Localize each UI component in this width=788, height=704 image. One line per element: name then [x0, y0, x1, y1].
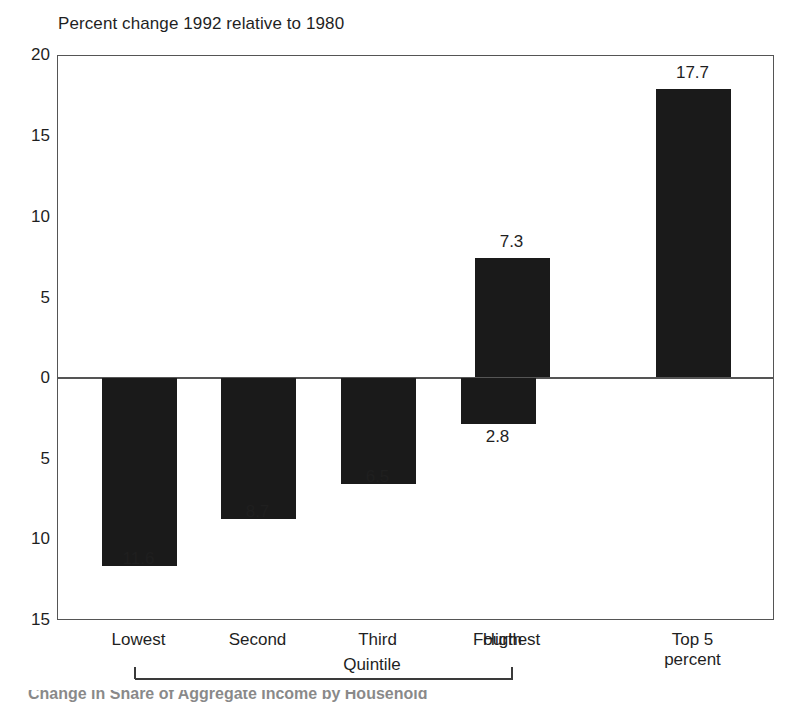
quintile-bracket — [134, 666, 513, 682]
bar-value-second: 8.7 — [220, 502, 295, 522]
ytick-label-neg15: 15 — [8, 610, 50, 630]
ytick-label-neg5: 5 — [8, 449, 50, 469]
ytick-label-0: 0 — [8, 368, 50, 388]
xtick-label-second-line1: Second — [229, 630, 287, 649]
figure-caption: Change in Share of Aggregate Income by H… — [0, 690, 788, 704]
bar-value-top5: 17.7 — [655, 63, 730, 83]
ytick-label-10: 10 — [8, 207, 50, 227]
xtick-label-top5: Top 5 percent — [655, 630, 730, 670]
xtick-label-lowest-line1: Lowest — [112, 630, 166, 649]
figure-caption-text: Change in Share of Aggregate Income by H… — [28, 690, 427, 703]
xtick-label-third: Third — [340, 630, 415, 650]
ytick-label-neg10: 10 — [8, 529, 50, 549]
bar-value-highest: 7.3 — [474, 232, 549, 252]
plot-area — [57, 55, 774, 620]
bar-top5[interactable] — [656, 89, 731, 377]
xtick-label-highest-line1: Highest — [483, 630, 541, 649]
ytick-label-20: 20 — [8, 45, 50, 65]
bar-fourth[interactable] — [461, 378, 536, 424]
bar-lowest[interactable] — [102, 378, 177, 566]
xtick-label-top5-line2: percent — [655, 650, 730, 670]
xtick-label-second: Second — [220, 630, 295, 650]
bar-value-fourth: 2.8 — [460, 427, 535, 447]
chart-title: Percent change 1992 relative to 1980 — [58, 14, 344, 34]
bar-highest-pos[interactable] — [475, 258, 550, 377]
ytick-label-5: 5 — [8, 288, 50, 308]
xtick-label-top5-line1: Top 5 — [672, 630, 714, 649]
ytick-label-15: 15 — [8, 126, 50, 146]
xtick-label-lowest: Lowest — [101, 630, 176, 650]
xtick-label-highest: Highest — [474, 630, 549, 650]
bar-value-lowest: 11.6 — [101, 549, 176, 569]
bar-value-third: 6.5 — [340, 467, 415, 487]
bar-second[interactable] — [221, 378, 296, 519]
figure: Percent change 1992 relative to 1980 20 … — [0, 0, 788, 704]
xtick-label-third-line1: Third — [358, 630, 397, 649]
